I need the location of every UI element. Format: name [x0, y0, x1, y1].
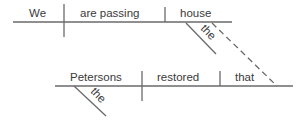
main-object: house	[180, 7, 211, 19]
relative-clause: Petersons restored that the	[55, 71, 293, 116]
main-clause: We are passing house the	[13, 4, 232, 54]
sentence-diagram: We are passing house the Petersons resto…	[0, 0, 305, 125]
main-verb: are passing	[80, 7, 139, 19]
relative-object: that	[235, 71, 255, 83]
main-subject: We	[29, 7, 46, 19]
relative-verb: restored	[157, 71, 199, 83]
relative-subject: Petersons	[70, 71, 122, 83]
